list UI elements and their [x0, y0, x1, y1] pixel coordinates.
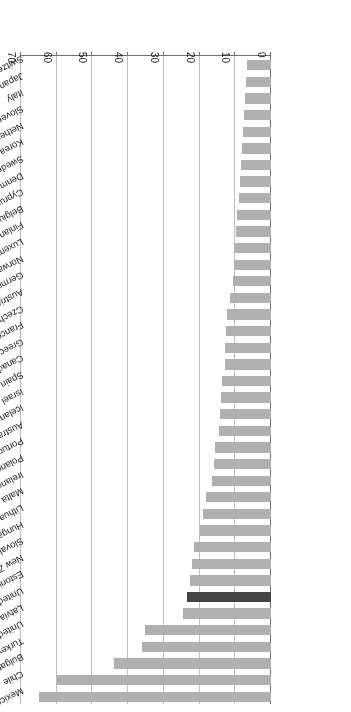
bar	[227, 309, 271, 319]
bar	[247, 60, 271, 70]
bar-row	[21, 241, 271, 256]
bar-row	[21, 623, 271, 638]
bar	[244, 110, 271, 120]
axis-tick	[270, 52, 271, 56]
bar-row	[21, 340, 271, 355]
bar	[222, 376, 271, 386]
bar-row	[21, 423, 271, 438]
bar-row	[21, 291, 271, 306]
category-labels-group: MexicoChileBulgariaTurkeyUnited StatesLa…	[0, 56, 21, 704]
bar-row	[21, 590, 271, 605]
bar	[236, 226, 271, 236]
bar	[219, 426, 271, 436]
bar-row	[21, 490, 271, 505]
bar-row	[21, 606, 271, 621]
bar	[245, 93, 271, 103]
bar	[221, 392, 271, 402]
bar-row	[21, 507, 271, 522]
bar	[239, 193, 271, 203]
bar	[57, 675, 271, 685]
axis-tick	[163, 52, 164, 56]
bar	[203, 509, 271, 519]
bar	[187, 592, 271, 602]
bar	[241, 160, 271, 170]
axis-tick	[199, 52, 200, 56]
bar	[114, 658, 271, 668]
bar-row	[21, 141, 271, 156]
bar-row	[21, 457, 271, 472]
bar-row	[21, 540, 271, 555]
bar	[194, 542, 271, 552]
bar-row	[21, 357, 271, 372]
axis-tick	[56, 52, 57, 56]
bar-row	[21, 390, 271, 405]
bar	[243, 127, 271, 137]
bar-row	[21, 207, 271, 222]
bar-row	[21, 407, 271, 422]
bar-row	[21, 307, 271, 322]
bar-row	[21, 673, 271, 688]
bar	[226, 326, 271, 336]
bar	[242, 143, 271, 153]
bar	[214, 459, 271, 469]
bar	[225, 343, 271, 353]
bar	[220, 409, 271, 419]
bar-chart-figure: 010203040506070 MexicoChileBulgariaTurke…	[0, 0, 351, 712]
bar	[230, 293, 271, 303]
bar	[142, 642, 271, 652]
bar-row	[21, 324, 271, 339]
bar-row	[21, 523, 271, 538]
bar	[233, 276, 271, 286]
bar	[246, 77, 271, 87]
bar-row	[21, 274, 271, 289]
bar-row	[21, 639, 271, 654]
bar	[215, 442, 271, 452]
bar-row	[21, 473, 271, 488]
bar-row	[21, 656, 271, 671]
bar-row	[21, 174, 271, 189]
bar-row	[21, 556, 271, 571]
axis-tick	[91, 52, 92, 56]
bar-row	[21, 440, 271, 455]
bar-row	[21, 573, 271, 588]
bar-row	[21, 108, 271, 123]
bar-row	[21, 257, 271, 272]
bar	[225, 359, 271, 369]
bar	[190, 575, 271, 585]
bar-row	[21, 191, 271, 206]
plot-area: 010203040506070	[21, 56, 271, 704]
category-label: Mexico	[0, 685, 26, 709]
bar-row	[21, 124, 271, 139]
bar-row	[21, 58, 271, 73]
bar	[145, 625, 271, 635]
bar	[200, 525, 271, 535]
axis-tick	[127, 52, 128, 56]
bar-row	[21, 374, 271, 389]
bar	[234, 260, 271, 270]
bar-row	[21, 158, 271, 173]
bar	[235, 243, 271, 253]
bar-row	[21, 91, 271, 106]
bar	[240, 176, 271, 186]
bar	[39, 692, 271, 702]
bar-row	[21, 689, 271, 704]
bar-row	[21, 75, 271, 90]
bar	[212, 476, 271, 486]
bar	[237, 210, 271, 220]
axis-tick	[234, 52, 235, 56]
bar-row	[21, 224, 271, 239]
bar	[206, 492, 271, 502]
axis-tick-label: 0	[256, 52, 267, 58]
bar	[192, 559, 271, 569]
bar	[184, 608, 272, 618]
